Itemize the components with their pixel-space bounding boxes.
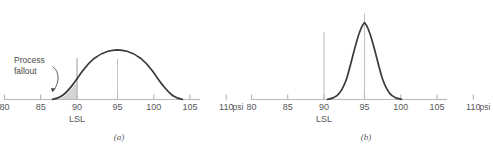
panel-caption-b: (b)	[361, 132, 372, 142]
x-tick-label-b-5: 105	[429, 102, 444, 112]
x-tick-label-b-1: 85	[283, 102, 293, 112]
x-tick-label-b-0: 80	[247, 102, 257, 112]
process-fallout-label-line2: fallout	[14, 66, 37, 76]
lsl-label-b: LSL	[316, 114, 332, 124]
x-tick-label-a-5: 105	[182, 102, 197, 112]
x-tick-label-b-2: 90	[319, 102, 329, 112]
x-tick-label-b-6: 110	[466, 102, 480, 112]
panel-a: Process fallout 80 85 90 95 100 105 110 …	[0, 0, 246, 146]
process-fallout-arrowhead	[51, 88, 56, 92]
x-tick-label-a-1: 85	[36, 102, 46, 112]
x-axis-ticks-b	[252, 95, 474, 100]
x-axis-ticks-a	[5, 95, 227, 100]
x-axis-unit-label-a: psi	[233, 102, 244, 112]
lsl-label-a: LSL	[69, 114, 85, 124]
x-tick-label-a-4: 100	[146, 102, 161, 112]
x-tick-label-b-4: 100	[393, 102, 408, 112]
process-capability-figure: Process fallout 80 85 90 95 100 105 110 …	[0, 0, 493, 146]
x-tick-label-a-0: 80	[0, 102, 10, 112]
process-fallout-label-line1: Process	[14, 55, 45, 65]
panel-caption-a: (a)	[114, 132, 125, 142]
x-tick-label-a-3: 95	[112, 102, 122, 112]
x-axis-unit-label-b: psi	[480, 102, 491, 112]
x-tick-label-a-2: 90	[72, 102, 82, 112]
x-tick-label-b-3: 95	[359, 102, 369, 112]
process-fallout-leader-line	[53, 67, 59, 92]
panel-b: 80 85 90 95 100 105 110 psi LSL (b)	[247, 0, 493, 146]
x-tick-label-a-6: 110	[219, 102, 233, 112]
